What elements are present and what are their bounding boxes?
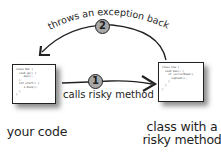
- step-2-badge: 2: [95, 19, 110, 34]
- your-code-snippet: class Bar { void go() { moo(); } int stu…: [13, 65, 55, 100]
- step-1-badge: 1: [88, 74, 103, 89]
- your-code-box: class Bar { void go() { moo(); } int stu…: [12, 64, 56, 104]
- exception-flow-diagram: throws an exception back 2 1 calls risky…: [0, 0, 221, 153]
- call-arrow-label: calls risky method: [63, 89, 154, 100]
- risky-class-box: class Cow { void moo() { if (serverDown)…: [158, 62, 204, 102]
- your-code-label: your code: [2, 125, 72, 138]
- risky-class-snippet: class Cow { void moo() { if (serverDown)…: [159, 63, 203, 94]
- risky-class-label: class with a risky method: [140, 120, 221, 146]
- call-arrow: [62, 81, 152, 84]
- risky-class-label-line2: risky method: [140, 133, 221, 146]
- exception-arrowhead-icon: [40, 46, 50, 55]
